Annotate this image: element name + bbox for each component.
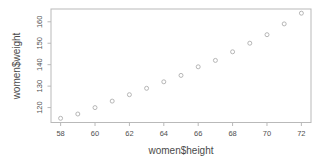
- x-axis-title: women$height: [147, 145, 213, 156]
- x-tick-label: 60: [91, 129, 99, 138]
- x-axis: 5860626466687072: [56, 123, 305, 138]
- data-point: [265, 33, 269, 37]
- y-tick-label: 160: [35, 16, 44, 29]
- x-tick-label: 62: [125, 129, 133, 138]
- data-point: [93, 106, 97, 110]
- data-point: [282, 22, 286, 26]
- data-point: [299, 11, 303, 15]
- x-tick-label: 58: [56, 129, 64, 138]
- data-point: [76, 112, 80, 116]
- data-point: [110, 99, 114, 103]
- plot-box: [51, 9, 311, 123]
- y-tick-label: 140: [35, 58, 44, 71]
- data-point: [59, 116, 63, 120]
- data-point: [127, 93, 131, 97]
- scatter-plot-figure: 5860626466687072 120130140150160 women$h…: [0, 0, 331, 165]
- x-tick-label: 72: [297, 129, 305, 138]
- data-point: [179, 73, 183, 77]
- data-points: [59, 11, 304, 120]
- x-tick-label: 64: [160, 129, 168, 138]
- scatter-plot: 5860626466687072 120130140150160 women$h…: [0, 0, 331, 165]
- x-tick-label: 70: [263, 129, 271, 138]
- y-tick-label: 150: [35, 37, 44, 50]
- y-tick-label: 120: [35, 101, 44, 114]
- data-point: [145, 86, 149, 90]
- y-axis-title: women$weight: [11, 32, 22, 100]
- data-point: [162, 80, 166, 84]
- data-point: [248, 41, 252, 45]
- y-tick-label: 130: [35, 80, 44, 93]
- data-point: [231, 50, 235, 54]
- x-tick-label: 68: [228, 129, 236, 138]
- plot-box-border: [51, 9, 311, 123]
- data-point: [196, 65, 200, 69]
- x-tick-label: 66: [194, 129, 202, 138]
- y-axis: 120130140150160: [35, 16, 51, 114]
- data-point: [213, 58, 217, 62]
